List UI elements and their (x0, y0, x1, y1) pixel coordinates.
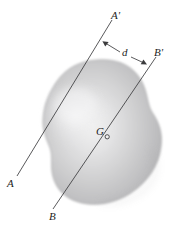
figure-canvas: A' B' A B d G (0, 0, 176, 231)
dimension-label-d: d (122, 47, 128, 58)
axis-label-b: B (49, 211, 56, 222)
centroid-label-g: G (96, 126, 104, 137)
axis-label-a: A (7, 178, 14, 189)
axis-label-b-prime: B' (154, 47, 163, 58)
axis-label-a-prime: A' (111, 10, 120, 21)
dimension-arrow-left (102, 41, 120, 52)
figure-svg (0, 0, 176, 231)
dimension-arrow-right (131, 57, 147, 64)
centroid-marker (105, 135, 109, 139)
